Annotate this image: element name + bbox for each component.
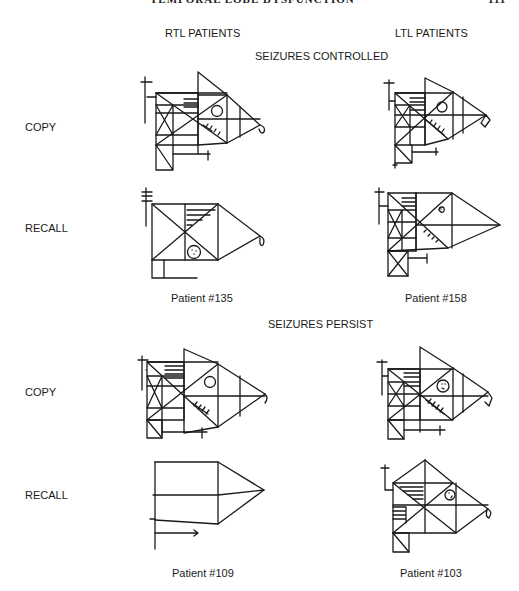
- column-title-rtl: RTL PATIENTS: [165, 27, 240, 39]
- caption-patient-103: Patient #103: [400, 567, 462, 579]
- row-label-copy: COPY: [25, 121, 56, 133]
- figure-ltl-controlled-copy: [360, 65, 519, 175]
- row-label-recall-2: RECALL: [25, 489, 68, 501]
- row-label-copy-2: COPY: [25, 386, 56, 398]
- page-number: 111: [488, 0, 506, 5]
- column-title-ltl: LTL PATIENTS: [395, 27, 468, 39]
- figure-rtl-persist-copy: [130, 340, 310, 455]
- caption-patient-135: Patient #135: [171, 292, 233, 304]
- caption-patient-109: Patient #109: [172, 567, 234, 579]
- figure-ltl-controlled-recall: [360, 180, 519, 290]
- figure-rtl-controlled-recall: [130, 180, 310, 290]
- caption-patient-158: Patient #158: [405, 292, 467, 304]
- section-title-seizures-persist: SEIZURES PERSIST: [268, 318, 373, 330]
- row-label-recall: RECALL: [25, 222, 68, 234]
- figure-ltl-persist-copy: [360, 340, 519, 455]
- running-title: TEMPORAL LOBE DYSFUNCTION: [150, 0, 355, 5]
- figure-rtl-persist-recall: [130, 455, 310, 565]
- figure-rtl-controlled-copy: [130, 65, 310, 175]
- figure-ltl-persist-recall: [360, 455, 519, 565]
- section-title-seizures-controlled: SEIZURES CONTROLLED: [255, 50, 388, 62]
